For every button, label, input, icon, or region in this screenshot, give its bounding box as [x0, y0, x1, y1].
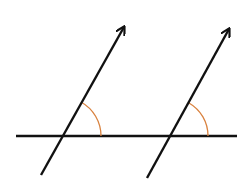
transversal-arrow-left	[41, 27, 124, 175]
transversal-arrow-right	[147, 29, 229, 178]
angle-arc-right	[189, 103, 208, 136]
angle-arc-left	[81, 102, 101, 136]
parallel-lines-diagram	[0, 0, 252, 193]
